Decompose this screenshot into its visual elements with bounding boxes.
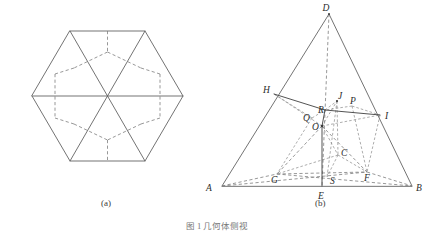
dash-J-C	[337, 101, 338, 155]
label-point-J: J	[338, 91, 343, 101]
label-point-F: F	[363, 173, 370, 183]
dash-O-G	[277, 126, 322, 174]
label-point-Q: Q	[303, 113, 310, 123]
dash-J-S	[327, 101, 337, 177]
label-point-I: I	[384, 111, 389, 121]
hexagon-dash-ul-out	[55, 68, 74, 74]
hexagon-dash-top-right	[108, 52, 142, 68]
hexagon-dash-top-left	[74, 52, 108, 68]
dash-O-C	[322, 126, 338, 155]
dash-G-B	[277, 174, 412, 186]
triangle-ADB-outline	[222, 14, 412, 186]
label-point-D: D	[322, 3, 330, 13]
label-point-O: O	[312, 122, 319, 132]
figure-container: (a)	[0, 0, 434, 231]
hexagon-dash-bot-left	[74, 124, 108, 140]
dash-Q-G	[277, 118, 312, 174]
dash-D-E	[322, 14, 329, 186]
label-point-S: S	[330, 176, 335, 186]
hexagon-dash-lr-out	[141, 118, 160, 124]
label-point-R: R	[317, 105, 324, 115]
panel-a-label: (a)	[101, 198, 111, 208]
dash-A-F	[222, 172, 367, 186]
hexagon-dash-ll-out	[55, 118, 74, 124]
label-point-P: P	[349, 96, 356, 106]
dash-O-I	[322, 115, 380, 126]
label-point-H: H	[262, 85, 271, 95]
panel-b-triangle: D A B E H I J P R Q O C G S F (b)	[205, 3, 422, 208]
hexagon-dash-ur-out	[141, 68, 160, 74]
node-D	[328, 13, 330, 15]
dash-R-J	[325, 101, 337, 110]
dash-I-F	[367, 115, 380, 172]
label-point-C: C	[341, 148, 348, 158]
figure-caption: 图 1 几何体侧视	[186, 221, 249, 231]
panel-b-label: (b)	[315, 198, 326, 208]
dash-P-F	[352, 106, 367, 172]
dash-A-G	[222, 174, 277, 186]
label-point-B: B	[416, 183, 422, 193]
label-point-G: G	[271, 175, 278, 185]
node-O	[321, 125, 324, 128]
hexagon-dash-bot-right	[108, 124, 142, 140]
label-point-A: A	[205, 183, 212, 193]
panel-a-hexagon: (a)	[32, 31, 183, 208]
geometry-figure: (a)	[0, 0, 434, 231]
